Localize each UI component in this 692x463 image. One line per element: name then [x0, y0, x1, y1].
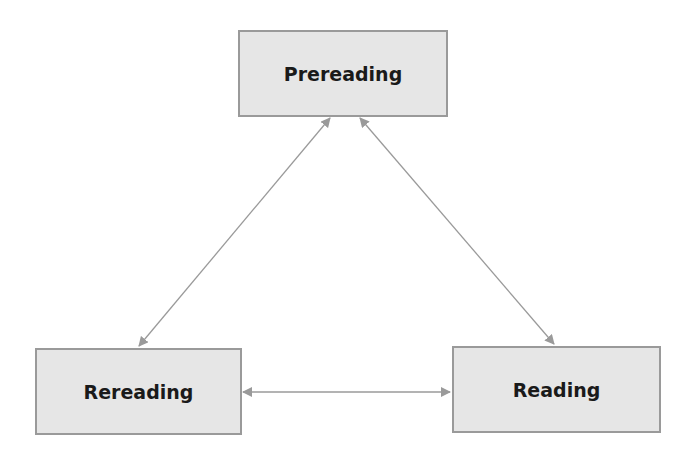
- node-prereading: Prereading: [238, 30, 448, 117]
- arrow-prereading-reading: [360, 118, 554, 344]
- node-label: Reading: [513, 379, 601, 401]
- node-rereading: Rereading: [35, 348, 242, 435]
- node-label: Prereading: [284, 63, 403, 85]
- arrow-prereading-rereading: [139, 118, 330, 346]
- node-reading: Reading: [452, 346, 661, 433]
- node-label: Rereading: [84, 381, 194, 403]
